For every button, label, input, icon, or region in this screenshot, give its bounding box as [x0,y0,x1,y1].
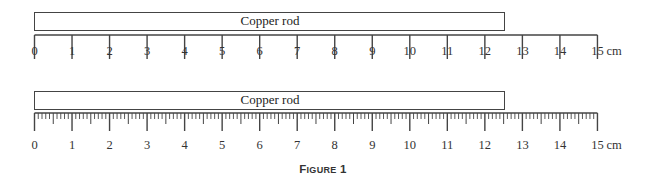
tick-label-13: 13 [516,44,529,59]
copper-rod-top-label: Copper rod [241,13,300,29]
tick-label-10: 10 [404,138,417,153]
unit-label: cm [606,44,621,59]
tick-label-10: 10 [404,44,417,59]
tick-label-8: 8 [332,44,338,59]
tick-label-9: 9 [369,44,375,59]
tick-label-12: 12 [479,44,492,59]
tick-label-5: 5 [219,138,225,153]
tick-label-8: 8 [332,138,338,153]
tick-label-2: 2 [106,44,112,59]
tick-label-1: 1 [69,138,75,153]
tick-label-14: 14 [554,44,567,59]
tick-label-4: 4 [181,138,187,153]
tick-label-3: 3 [144,138,150,153]
tick-label-15: 15 [591,138,604,153]
tick-label-13: 13 [516,138,529,153]
tick-label-1: 1 [69,44,75,59]
tick-label-12: 12 [479,138,492,153]
tick-label-6: 6 [257,138,263,153]
tick-label-6: 6 [257,44,263,59]
tick-label-5: 5 [219,44,225,59]
coarse-ruler [0,34,646,64]
tick-label-15: 15 [591,44,604,59]
figure-caption: FIGURE 1 [0,163,646,175]
copper-rod-bottom-label: Copper rod [241,92,300,108]
tick-label-0: 0 [31,44,37,59]
unit-label: cm [606,138,621,153]
tick-label-3: 3 [144,44,150,59]
tick-label-2: 2 [106,138,112,153]
tick-label-9: 9 [369,138,375,153]
tick-label-7: 7 [294,138,300,153]
tick-label-7: 7 [294,44,300,59]
tick-label-11: 11 [441,44,453,59]
tick-label-14: 14 [554,138,567,153]
tick-label-4: 4 [181,44,187,59]
fine-ruler [0,112,646,142]
tick-label-11: 11 [441,138,453,153]
tick-label-0: 0 [31,138,37,153]
